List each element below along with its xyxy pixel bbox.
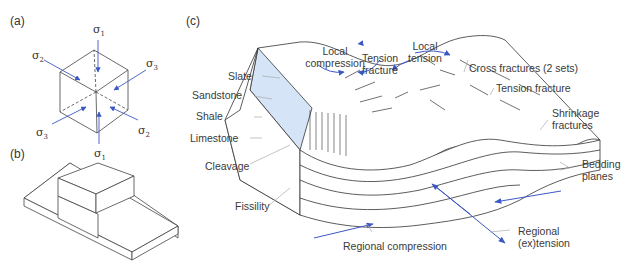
label-regional-extension-line2: (ex)tension <box>518 237 570 249</box>
overlapping-blocks <box>24 163 178 260</box>
label-bedding-line1: Bedding <box>582 158 621 170</box>
sigma1-top-label: σ1 <box>93 24 105 40</box>
label-bedding-line2: planes <box>582 170 621 182</box>
label-local-tension: Local tension <box>400 40 450 64</box>
panel-label-c: (c) <box>186 15 200 27</box>
label-regional-extension-line1: Regional <box>518 225 570 237</box>
label-tension-fracture-top-line2: fracture <box>350 64 410 76</box>
sigma2-right-label: σ2 <box>138 125 150 141</box>
label-cleavage: Cleavage <box>205 160 249 172</box>
label-sandstone: Sandstone <box>192 89 242 101</box>
label-slate: Slate <box>228 70 252 82</box>
sigma3-right-label: σ3 <box>146 58 158 74</box>
label-shrinkage-line1: Shrinkage <box>552 107 599 119</box>
label-local-tension-line2: tension <box>400 52 450 64</box>
sigma1-bottom-label: σ1 <box>94 148 106 164</box>
label-shrinkage-fractures: Shrinkage fractures <box>552 107 599 131</box>
label-local-tension-line1: Local <box>400 40 450 52</box>
label-limestone: Limestone <box>190 132 238 144</box>
label-fissility: Fissility <box>235 200 269 212</box>
label-shale: Shale <box>196 110 223 122</box>
label-bedding-planes: Bedding planes <box>582 158 621 182</box>
sigma3-left-label: σ3 <box>36 127 48 143</box>
label-regional-extension: Regional (ex)tension <box>518 225 570 249</box>
label-regional-compression: Regional compression <box>343 240 447 252</box>
label-tension-fracture-right: Tension fracture <box>496 82 571 94</box>
panel-label-a: (a) <box>10 15 25 27</box>
label-shrinkage-line2: fractures <box>552 119 599 131</box>
panel-label-b: (b) <box>10 148 25 160</box>
label-cross-fractures: Cross fractures (2 sets) <box>469 62 578 74</box>
sigma2-left-label: σ2 <box>32 50 44 66</box>
stress-cube <box>60 50 128 133</box>
